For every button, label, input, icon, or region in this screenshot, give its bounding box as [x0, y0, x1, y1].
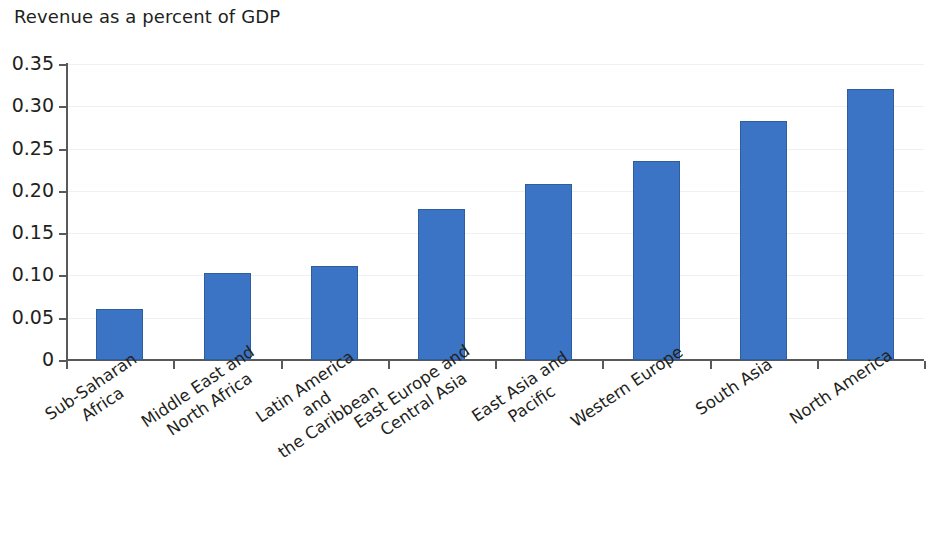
gridline: [66, 149, 924, 150]
y-axis-tick: [59, 360, 66, 362]
y-axis-tick-label: 0: [42, 350, 54, 369]
bar: [740, 121, 787, 360]
chart-figure: Revenue as a percent of GDP 00.050.100.1…: [0, 0, 931, 533]
x-axis-tick: [66, 361, 68, 369]
y-axis-tick-label: 0.25: [12, 139, 54, 158]
x-axis-tick: [173, 361, 175, 369]
y-axis-tick-label: 0.35: [12, 54, 54, 73]
x-axis-tick: [924, 361, 926, 369]
gridline: [66, 318, 924, 319]
y-axis-tick: [59, 191, 66, 193]
x-axis-tick: [602, 361, 604, 369]
y-axis-tick-label: 0.10: [12, 265, 54, 284]
y-axis-tick: [59, 233, 66, 235]
y-axis-tick-label: 0.05: [12, 308, 54, 327]
y-axis-tick-label: 0.20: [12, 181, 54, 200]
bar: [847, 89, 894, 360]
gridline: [66, 233, 924, 234]
y-axis-tick: [59, 149, 66, 151]
y-axis-tick-label: 0.15: [12, 223, 54, 242]
x-axis-tick: [817, 361, 819, 369]
gridline: [66, 64, 924, 65]
gridline: [66, 191, 924, 192]
y-axis-tick-label: 0.30: [12, 96, 54, 115]
bar: [525, 184, 572, 360]
y-axis-tick: [59, 64, 66, 66]
x-axis-tick: [388, 361, 390, 369]
y-axis-tick: [59, 318, 66, 320]
gridline: [66, 106, 924, 107]
y-axis-line: [66, 63, 68, 361]
x-axis-tick: [710, 361, 712, 369]
x-axis-tick: [281, 361, 283, 369]
y-axis-tick: [59, 275, 66, 277]
bar: [633, 161, 680, 360]
x-axis-tick: [495, 361, 497, 369]
bar: [418, 209, 465, 360]
y-axis-tick: [59, 106, 66, 108]
chart-title: Revenue as a percent of GDP: [14, 6, 280, 28]
gridline: [66, 275, 924, 276]
